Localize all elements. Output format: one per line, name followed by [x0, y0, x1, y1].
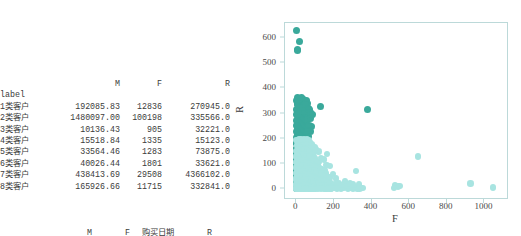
y-tick-label: 100: [263, 158, 277, 168]
table-1-row-2-label: 3类客户: [0, 124, 52, 135]
table-2-index-header-blank: [0, 227, 52, 236]
table-1-header-row: M F R: [0, 78, 230, 89]
data-point: [415, 153, 421, 159]
table-1-row-5-r: 33621.0: [162, 158, 230, 169]
x-tick-mark: [446, 199, 447, 203]
table-row: 6类客户 40026.44 1801 33621.0: [0, 158, 230, 169]
data-point: [353, 168, 359, 174]
table-1-row-2-r: 32221.0: [162, 124, 230, 135]
y-tick-mark: [280, 62, 284, 63]
data-point: [296, 38, 303, 45]
table-1-row-3-f: 1335: [120, 135, 162, 146]
y-tick-mark: [280, 163, 284, 164]
y-tick-label: 400: [263, 82, 277, 92]
data-point: [396, 183, 402, 189]
data-point: [467, 180, 473, 186]
dataframe-table-1: M F R label 1类客户 192085.83 12836 270945.…: [0, 78, 230, 192]
table-1-index-header-blank: [0, 78, 52, 89]
data-point: [295, 185, 301, 191]
data-point: [298, 94, 305, 101]
table-1-header-r: R: [162, 78, 230, 89]
y-tick-mark: [280, 137, 284, 138]
x-axis-title: F: [284, 213, 506, 224]
table-1-row-1-m: 1480097.00: [52, 112, 120, 123]
table-1-row-0-m: 192085.83: [52, 101, 120, 112]
table-row: 7类客户 438413.69 29508 4366102.0: [0, 169, 230, 180]
table-1-row-4-m: 33564.46: [52, 146, 120, 157]
table-1-index-name: label: [0, 89, 52, 100]
table-1-row-3-r: 15123.0: [162, 135, 230, 146]
data-point: [327, 163, 333, 169]
table-1-row-2-f: 905: [120, 124, 162, 135]
plot-area: [284, 22, 508, 199]
data-point: [490, 184, 496, 190]
table-1-row-3-label: 4类客户: [0, 135, 52, 146]
x-tick-mark: [483, 199, 484, 203]
data-point: [294, 47, 301, 54]
y-tick-label: 0: [272, 183, 277, 193]
table-1-row-1-label: 2类客户: [0, 112, 52, 123]
table-1-row-0-label: 1类客户: [0, 101, 52, 112]
table-1-row-5-m: 40026.44: [52, 158, 120, 169]
table-1-row-0-f: 12836: [120, 101, 162, 112]
y-tick-mark: [280, 87, 284, 88]
data-point: [309, 111, 316, 118]
y-axis-tick-labels: 0100200300400500600: [236, 22, 280, 197]
data-point: [324, 151, 330, 157]
data-point: [317, 103, 324, 110]
dataframe-table-2: M F 购买日期 R label 1类客户 902 902: [0, 227, 212, 236]
data-point: [359, 185, 365, 191]
table-2-header-row: M F 购买日期 R: [0, 227, 212, 236]
cut-off-top-line: [0, 35, 236, 42]
data-point: [293, 27, 300, 34]
table-1-row-4-r: 73875.0: [162, 146, 230, 157]
table-1-row-7-f: 11715: [120, 181, 162, 192]
y-tick-mark: [280, 112, 284, 113]
y-tick-mark: [280, 188, 284, 189]
x-tick-mark: [295, 199, 296, 203]
table-2-header-f: F: [92, 227, 130, 236]
data-point: [309, 186, 315, 192]
table-1-row-7-label: 8类客户: [0, 181, 52, 192]
screenshot-root: M F R label 1类客户 192085.83 12836 270945.…: [0, 0, 521, 236]
table-1-row-4-f: 1283: [120, 146, 162, 157]
table-1-row-6-m: 438413.69: [52, 169, 120, 180]
table-1-row-6-label: 7类客户: [0, 169, 52, 180]
table-1-row-5-f: 1801: [120, 158, 162, 169]
data-point: [391, 185, 397, 191]
table-2-header-r: R: [174, 227, 212, 236]
table-row: 3类客户 10136.43 905 32221.0: [0, 124, 230, 135]
y-tick-label: 500: [263, 57, 277, 67]
table-1-row-1-r: 335566.0: [162, 112, 230, 123]
x-tick-mark: [371, 199, 372, 203]
table-row: 5类客户 33564.46 1283 73875.0: [0, 146, 230, 157]
table-1-index-name-row: label: [0, 89, 230, 100]
table-1-row-4-label: 5类客户: [0, 146, 52, 157]
table-1-row-2-m: 10136.43: [52, 124, 120, 135]
table-1-header-m: M: [52, 78, 120, 89]
table-1-row-7-m: 165926.66: [52, 181, 120, 192]
y-tick-label: 300: [263, 108, 277, 118]
y-tick-mark: [280, 37, 284, 38]
data-point: [350, 181, 356, 187]
table-1-row-7-r: 332841.0: [162, 181, 230, 192]
x-tick-mark: [408, 199, 409, 203]
data-point: [364, 106, 371, 113]
x-axis-tick-labels: 02004006008001000: [284, 199, 506, 213]
table-2-header-m: M: [52, 227, 92, 236]
table-1-row-6-r: 4366102.0: [162, 169, 230, 180]
table-row: 2类客户 1480097.00 100198 335566.0: [0, 112, 230, 123]
table-1-row-3-m: 15518.84: [52, 135, 120, 146]
x-tick-mark: [333, 199, 334, 203]
console-output-panel: M F R label 1类客户 192085.83 12836 270945.…: [0, 0, 236, 236]
data-point: [328, 185, 334, 191]
table-row: 1类客户 192085.83 12836 270945.0: [0, 101, 230, 112]
table-1-row-6-f: 29508: [120, 169, 162, 180]
table-row: 4类客户 15518.84 1335 15123.0: [0, 135, 230, 146]
y-tick-label: 200: [263, 133, 277, 143]
table-1-row-5-label: 6类客户: [0, 158, 52, 169]
table-row: 8类客户 165926.66 11715 332841.0: [0, 181, 230, 192]
table-2-header-purchase-date: 购买日期: [130, 227, 174, 236]
scatter-chart: R 0100200300400500600 02004006008001000 …: [236, 0, 521, 236]
table-1-header-f: F: [120, 78, 162, 89]
